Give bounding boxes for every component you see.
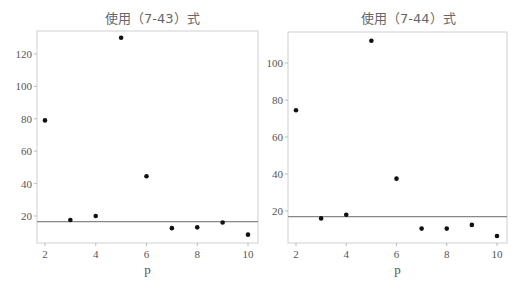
x-axis-label: p	[394, 262, 401, 277]
x-tick-label: 10	[492, 248, 504, 260]
x-tick-label: 2	[42, 248, 48, 260]
data-point	[444, 226, 449, 231]
y-tick-label: 100	[267, 57, 284, 69]
plot-frame	[37, 31, 258, 243]
y-tick-label: 60	[21, 145, 33, 157]
x-tick-label: 8	[444, 248, 450, 260]
data-point	[369, 39, 374, 44]
scatter-plot-2: 20406080100246810p	[262, 0, 525, 284]
y-tick-label: 80	[272, 94, 284, 106]
x-tick-label: 4	[93, 248, 99, 260]
data-point	[93, 214, 98, 219]
y-tick-label: 20	[272, 205, 284, 217]
data-point	[220, 220, 225, 225]
x-tick-label: 8	[195, 248, 201, 260]
data-point	[319, 216, 324, 221]
data-point	[294, 108, 299, 113]
plot-frame	[288, 32, 507, 243]
x-tick-label: 4	[344, 248, 350, 260]
data-point	[170, 226, 175, 231]
y-tick-label: 80	[21, 113, 33, 125]
data-point	[470, 223, 475, 228]
scatter-plot-1: 20406080100120246810p	[0, 0, 262, 284]
data-point	[419, 226, 424, 231]
data-point	[119, 36, 124, 41]
data-point	[144, 174, 149, 179]
x-tick-label: 10	[243, 248, 255, 260]
y-tick-label: 20	[21, 210, 33, 222]
y-tick-label: 100	[16, 80, 33, 92]
y-tick-label: 40	[272, 168, 284, 180]
chart-panel-1: 使用（7-43）式 20406080100120246810p	[0, 0, 262, 284]
data-point	[43, 118, 48, 123]
y-tick-label: 60	[272, 131, 284, 143]
y-tick-label: 120	[16, 48, 33, 60]
data-point	[344, 212, 349, 217]
x-axis-label: p	[144, 262, 151, 277]
data-point	[195, 225, 200, 230]
y-tick-label: 40	[21, 178, 33, 190]
data-point	[68, 218, 73, 223]
x-tick-label: 6	[394, 248, 400, 260]
chart-panel-2: 使用（7-44）式 20406080100246810p	[262, 0, 525, 284]
data-point	[394, 176, 399, 181]
data-point	[246, 232, 251, 237]
data-point	[495, 234, 500, 239]
x-tick-label: 2	[293, 248, 299, 260]
x-tick-label: 6	[144, 248, 150, 260]
